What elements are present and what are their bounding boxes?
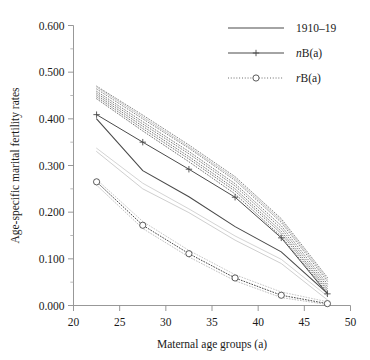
y-tick-label: 0.200 [39,206,65,218]
legend-label-1: 1910–19 [296,22,337,34]
y-tick-label: 0.300 [39,160,65,172]
series-line-1 [97,119,328,294]
legend-label-3: rB(a) [296,72,321,85]
x-axis-title: Maternal age groups (a) [157,338,267,351]
legend-label-rest: B(a) [302,47,323,60]
y-axis-title: Age-specific marital fertility rates [9,87,22,244]
series-marker-circle [232,275,238,281]
background-series-line [97,99,328,293]
legend-marker-circle [253,75,259,81]
background-series-line [97,152,328,300]
y-tick-label: 0.000 [39,300,65,312]
background-series-line [97,95,328,289]
series-line-3 [97,182,328,304]
series-marker-circle [93,179,99,185]
background-series-line [97,91,328,284]
y-tick-label: 0.100 [39,253,65,265]
y-tick-label: 0.400 [39,113,65,125]
y-tick-label: 0.500 [39,66,65,78]
fertility-rate-chart: 0.0000.1000.2000.3000.4000.5000.60020253… [0,0,370,360]
series-marker-circle [140,222,146,228]
background-series-line [97,93,328,286]
series-line-2 [97,115,328,294]
legend-label-rest: B(a) [300,72,321,85]
background-series-line [97,86,328,277]
x-tick-label: 20 [68,316,80,328]
series-marker-circle [278,292,284,298]
chart-canvas: 0.0000.1000.2000.3000.4000.5000.60020253… [0,0,370,360]
x-tick-label: 35 [206,316,218,328]
series-marker-circle [186,251,192,257]
series-marker-circle [324,301,330,307]
x-tick-label: 45 [299,316,311,328]
background-series-line [97,148,328,296]
x-tick-label: 50 [345,316,357,328]
x-tick-label: 25 [114,316,126,328]
x-tick-label: 30 [160,316,172,328]
background-series-line [97,180,328,302]
background-series-line [97,185,328,304]
legend-label-2: nB(a) [296,47,322,60]
x-tick-label: 40 [252,316,264,328]
y-tick-label: 0.600 [39,20,65,32]
